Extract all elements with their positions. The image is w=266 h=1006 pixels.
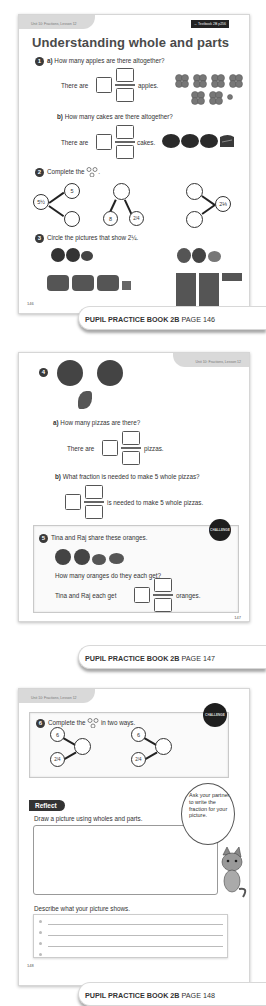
- page-ribbon-147: PUPIL PRACTICE BOOK 2B PAGE 147: [78, 645, 266, 669]
- description-lines[interactable]: [33, 914, 228, 958]
- q4b-question: b) What fraction is needed to make 5 who…: [55, 473, 200, 480]
- bond3-whole[interactable]: 2⅓: [215, 196, 231, 212]
- q2-prompt: 2Complete the .: [35, 167, 100, 177]
- fraction-line: [115, 141, 135, 143]
- q5-sentence-start: Tina and Raj each get: [55, 592, 116, 599]
- q3-prompt: 3Circle the pictures that show 2¼.: [35, 234, 138, 243]
- q4b-numerator-box[interactable]: [85, 485, 103, 499]
- q5-question: How many oranges do they each get?: [55, 572, 161, 579]
- q4a-numerator-box[interactable]: [122, 431, 140, 445]
- q5-denominator-box[interactable]: [154, 598, 172, 612]
- q1-number: 1: [35, 57, 44, 66]
- q5-numerator-box[interactable]: [154, 578, 172, 592]
- q4b-whole-box[interactable]: [65, 494, 81, 510]
- page-146: Unit 10: Fractions, Lesson 12 → Textbook…: [18, 14, 250, 314]
- q1b-sentence-start: There are: [61, 139, 88, 146]
- page-148: Unit 10: Fractions, Lesson 12 CHALLENGE …: [18, 688, 250, 986]
- challenge-badge: CHALLENGE: [203, 703, 227, 727]
- speech-bubble: Ask your partner to write the fraction f…: [181, 783, 235, 845]
- page-ribbon-148: PUPIL PRACTICE BOOK 2B PAGE 148: [78, 982, 266, 1006]
- cat-character-icon: [215, 845, 249, 901]
- fraction-line: [121, 447, 141, 449]
- bond2-part2[interactable]: 2/4: [129, 211, 144, 226]
- bond1-whole[interactable]: 5½: [33, 194, 49, 210]
- q4a-whole-box[interactable]: [102, 440, 118, 456]
- q1a-denominator-box[interactable]: [116, 88, 134, 102]
- q1b-denominator-box[interactable]: [116, 145, 134, 159]
- textbook-ref[interactable]: → Textbook 2B p256: [191, 20, 229, 28]
- q1a-sentence-start: There are: [61, 82, 88, 89]
- reflect-prompt: Draw a picture using wholes and parts.: [34, 815, 143, 822]
- q4a-sentence-end: pizzas.: [144, 445, 164, 452]
- apples-image: [174, 73, 250, 107]
- page-title: Understanding whole and parts: [32, 35, 229, 50]
- q1b-whole-box[interactable]: [96, 134, 112, 150]
- page-ribbon-146: PUPIL PRACTICE BOOK 2B PAGE 146: [78, 306, 266, 330]
- q1a-numerator-box[interactable]: [116, 68, 134, 82]
- q1a-question: 1a) How many apples are there altogether…: [35, 57, 165, 66]
- bond1-part2[interactable]: [64, 211, 80, 227]
- reflect-tag: Reflect: [29, 800, 65, 811]
- bond2-part2[interactable]: 2/4: [131, 752, 146, 767]
- bond1-whole[interactable]: [74, 738, 91, 755]
- q1a-whole-box[interactable]: [96, 77, 112, 93]
- bond2-part1[interactable]: 6: [131, 727, 146, 742]
- page-number: 147: [234, 615, 241, 620]
- page-147: Unit 10: Fractions, Lesson 12 4 a) How m…: [18, 352, 250, 622]
- bond2-part1[interactable]: 8: [103, 211, 118, 226]
- q3-number: 3: [35, 234, 44, 243]
- bond3-part2[interactable]: [186, 211, 203, 228]
- q5-sentence-end: oranges.: [176, 592, 201, 599]
- page-number: 148: [27, 963, 34, 968]
- bond3-part1[interactable]: [186, 183, 203, 200]
- q4b-denominator-box[interactable]: [85, 505, 103, 519]
- part-whole-model-icon: [87, 718, 99, 728]
- challenge-badge: CHALLENGE: [209, 519, 231, 541]
- unit-tag: Unit 10: Fractions, Lesson 12: [19, 15, 95, 29]
- page-number: 146: [27, 301, 34, 306]
- fraction-line: [115, 84, 135, 86]
- fraction-line: [153, 594, 173, 596]
- q5-prompt: 5Tina and Raj share these oranges.: [39, 534, 147, 543]
- fraction-line: [84, 501, 104, 503]
- q5-whole-box[interactable]: [134, 587, 150, 603]
- q2-number: 2: [35, 168, 44, 177]
- unit-tag: Unit 10: Fractions, Lesson 12: [173, 353, 249, 367]
- unit-tag: Unit 10: Fractions, Lesson 12: [19, 689, 95, 703]
- bond1-part1[interactable]: 5: [64, 183, 80, 199]
- q4-number: 4: [39, 368, 48, 377]
- q1a-sentence-end: apples.: [138, 82, 158, 89]
- bond2-whole[interactable]: [113, 183, 130, 200]
- q1b-question: b) How many cakes are there altogether?: [57, 113, 173, 120]
- bond1-part2[interactable]: 2/4: [50, 752, 65, 767]
- describe-prompt: Describe what your picture shows.: [34, 905, 130, 912]
- q5-number: 5: [39, 534, 48, 543]
- q4a-denominator-box[interactable]: [122, 451, 140, 465]
- bond2-whole[interactable]: [155, 738, 172, 755]
- q4a-question: a) How many pizzas are there?: [53, 419, 140, 426]
- q6-prompt: 6Complete the in two ways.: [36, 718, 135, 728]
- q4b-sentence-end: is needed to make 5 whole pizzas.: [107, 499, 203, 506]
- bond1-part1[interactable]: 6: [50, 727, 65, 742]
- part-whole-model-icon: [86, 167, 98, 177]
- cakes-image: [162, 133, 242, 149]
- q4a-sentence-start: There are: [67, 445, 94, 452]
- q1b-sentence-end: cakes.: [137, 139, 155, 146]
- q1b-numerator-box[interactable]: [116, 125, 134, 139]
- q6-number: 6: [36, 719, 45, 728]
